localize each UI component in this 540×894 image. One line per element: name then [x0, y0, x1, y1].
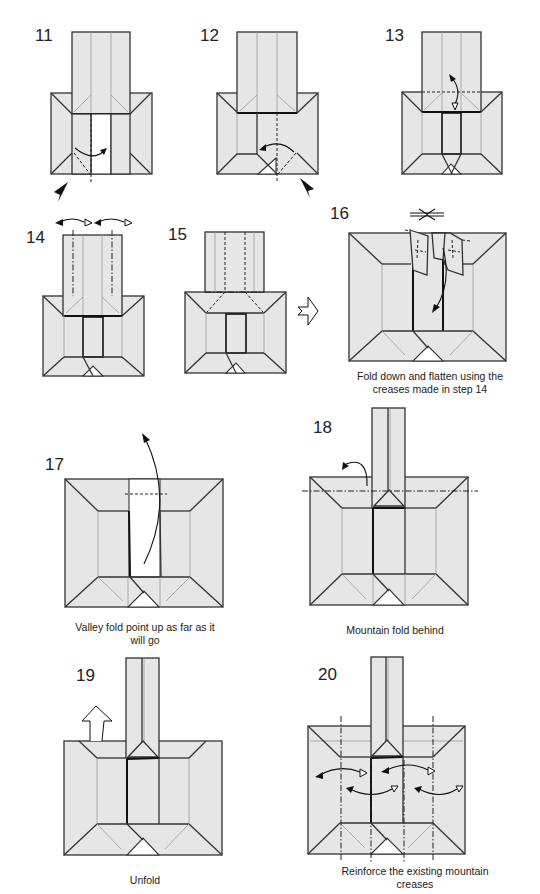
diagrams-canvas: [0, 0, 540, 894]
next-step-arrow-icon: [298, 297, 318, 325]
flatten-icon: [410, 209, 444, 220]
step-12-diagram: [217, 32, 318, 198]
step-17-diagram: [65, 433, 223, 607]
step-13-diagram: [402, 32, 502, 174]
step-20-diagram: [308, 657, 465, 862]
step-18-diagram: [302, 408, 478, 605]
step-11-diagram: [51, 32, 152, 202]
step-19-diagram: [64, 658, 222, 855]
step-14-diagram: [43, 219, 144, 376]
unfold-arrow-icon: [82, 706, 112, 741]
step-16-diagram: [349, 209, 506, 361]
step-15-diagram: [185, 232, 318, 373]
